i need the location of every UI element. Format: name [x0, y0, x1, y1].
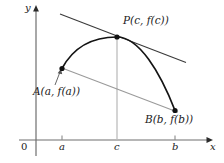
point-label-b: B(b, f(b))	[145, 114, 193, 125]
x-axis-label: x	[210, 142, 216, 152]
x-tick-label-b: b	[172, 142, 178, 152]
x-tick-label-a: a	[59, 142, 65, 152]
point-label-a: A(a, f(a))	[33, 86, 80, 97]
function-curve	[62, 37, 175, 111]
point-marker-a	[59, 66, 64, 71]
point-marker-p	[114, 34, 119, 39]
figure-canvas	[0, 0, 224, 163]
origin-label: 0	[21, 142, 27, 152]
point-label-p: P(c, f(c))	[123, 15, 169, 26]
y-axis-arrowhead	[33, 5, 39, 12]
y-axis-label: y	[25, 3, 31, 13]
x-tick-label-c: c	[114, 142, 120, 152]
mean-value-theorem-figure: y x 0 a c b P(c, f(c)) A(a, f(a)) B(b, f…	[0, 0, 224, 163]
